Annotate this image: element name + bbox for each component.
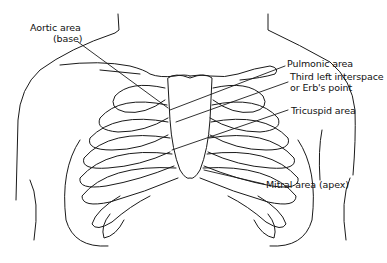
label-tricuspid-title: Tricuspid area	[291, 105, 356, 116]
label-pulmonic-area: Pulmonic area	[287, 58, 353, 69]
label-aortic-area: Aortic area (base)	[30, 22, 82, 44]
label-mitral-area: Mitral area (apex)	[266, 179, 349, 190]
label-aortic-sub: (base)	[30, 33, 82, 44]
label-erb-title: Third left interspace	[290, 71, 384, 82]
label-pulmonic-title: Pulmonic area	[287, 58, 353, 69]
right-ribs	[65, 85, 178, 246]
label-erb-sub: or Erb's point	[290, 82, 384, 93]
label-aortic-title: Aortic area	[30, 22, 82, 33]
label-mitral-title: Mitral area (apex)	[266, 179, 349, 190]
auscultation-diagram: Aortic area (base) Pulmonic area Third l…	[0, 0, 387, 263]
label-erbs-point: Third left interspace or Erb's point	[290, 71, 384, 93]
label-tricuspid-area: Tricuspid area	[291, 105, 356, 116]
